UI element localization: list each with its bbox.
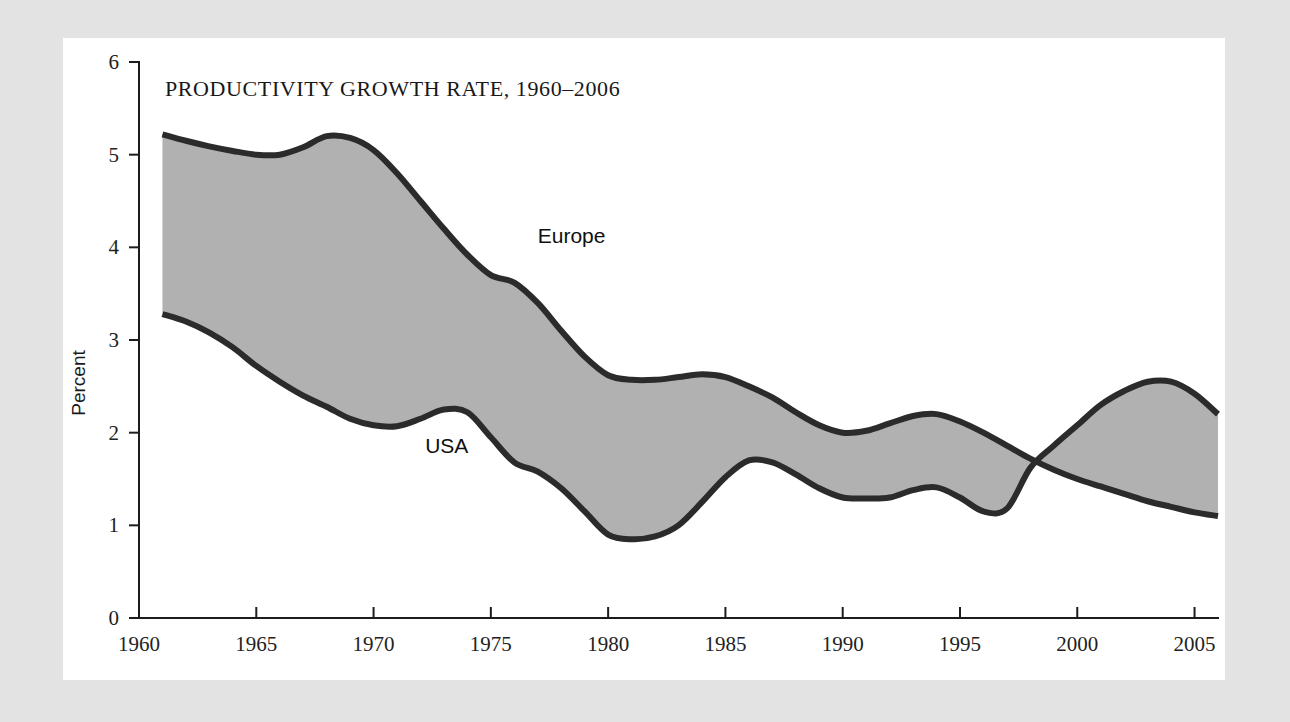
x-axis-tick-label: 1965 [235,632,277,656]
x-axis-tick-label: 1975 [470,632,512,656]
europe-usa-gap-band [162,134,1218,539]
x-axis-tick-label: 1980 [587,632,629,656]
x-axis-tick-label: 2005 [1174,632,1216,656]
y-axis-tick-label: 1 [109,513,120,537]
x-axis-tick-label: 1970 [353,632,395,656]
figure-card: PRODUCTIVITY GROWTH RATE, 1960–2006 Perc… [63,38,1225,680]
productivity-growth-chart: PRODUCTIVITY GROWTH RATE, 1960–2006 Perc… [63,38,1225,680]
chart-title-group: PRODUCTIVITY GROWTH RATE, 1960–2006 [165,76,620,101]
x-axis-tick-label: 1995 [939,632,981,656]
x-axis-tick-label: 1985 [704,632,746,656]
europe-series-label: Europe [538,224,606,247]
y-axis-tick-label: 2 [109,421,120,445]
y-axis-title-group: Percent [68,350,89,416]
x-axis-tick-label: 1960 [118,632,160,656]
y-axis: 0123456 [109,50,140,630]
chart-area: PRODUCTIVITY GROWTH RATE, 1960–2006 Perc… [63,38,1225,680]
y-axis-tick-label: 6 [109,50,120,74]
y-axis-tick-label: 0 [109,606,120,630]
y-axis-title: Percent [68,350,89,416]
y-axis-tick-label: 3 [109,328,120,352]
x-axis: 1960196519701975198019851990199520002005 [118,607,1218,656]
x-axis-tick-label: 2000 [1056,632,1098,656]
usa-series-label: USA [425,434,468,457]
x-axis-tick-label: 1990 [822,632,864,656]
chart-title: PRODUCTIVITY GROWTH RATE, 1960–2006 [165,76,620,101]
y-axis-tick-label: 5 [109,143,120,167]
y-axis-tick-label: 4 [109,235,120,259]
